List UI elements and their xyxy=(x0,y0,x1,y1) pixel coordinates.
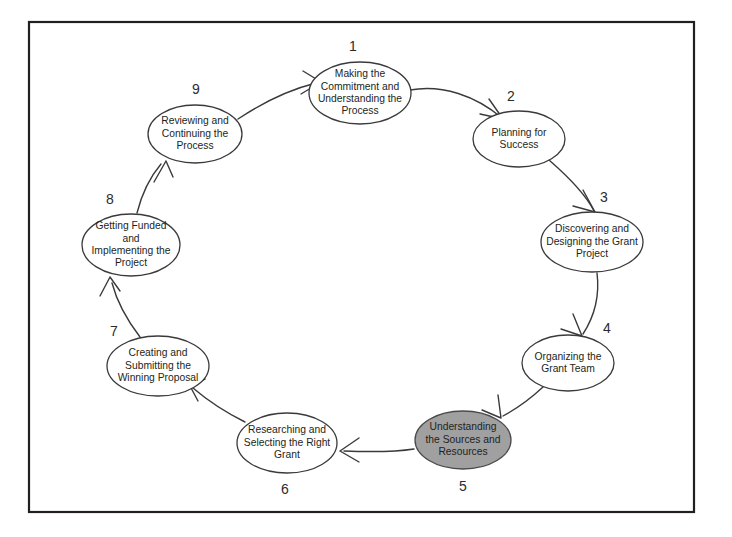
process-cycle-diagram: Making theCommitment andUnderstanding th… xyxy=(0,0,732,537)
node-label-line: Creating and xyxy=(129,347,188,358)
node-label-line: Understanding the xyxy=(318,93,402,104)
node-label-line: Reviewing and xyxy=(161,115,229,126)
node-step-number: 8 xyxy=(106,191,114,207)
node-step-number: 1 xyxy=(349,38,357,54)
node-label-line: Commitment and xyxy=(321,81,400,92)
cycle-diagram-canvas: Making theCommitment andUnderstanding th… xyxy=(0,0,732,537)
node-label-line: Project xyxy=(576,248,608,259)
node-label-line: Planning for xyxy=(492,127,548,138)
node-step-number: 7 xyxy=(110,323,118,339)
node-label-line: Implementing the xyxy=(92,245,171,256)
node-label-line: Process xyxy=(176,140,213,151)
node-label-line: and xyxy=(122,233,139,244)
node-label-line: the Sources and xyxy=(426,434,501,445)
node-step-number: 5 xyxy=(459,478,467,494)
node-label-line: Resources xyxy=(438,446,487,457)
node-step-number: 6 xyxy=(281,481,289,497)
node-label-line: Grant Team xyxy=(541,363,595,374)
node-label-line: Continuing the xyxy=(162,128,229,139)
node-label-line: Making the xyxy=(335,68,386,79)
node-step-number: 4 xyxy=(603,320,611,336)
node-step-number: 2 xyxy=(507,88,515,104)
node-label-line: Success xyxy=(500,139,539,150)
node-label-line: Selecting the Right xyxy=(244,437,331,448)
node-label-line: Understanding xyxy=(430,421,497,432)
node-label-line: Researching and xyxy=(248,424,326,435)
node-step-number: 3 xyxy=(600,189,608,205)
node-label-line: Organizing the xyxy=(535,351,602,362)
node-label-line: Project xyxy=(115,257,147,268)
node-step-number: 9 xyxy=(192,81,200,97)
node-label-line: Getting Funded xyxy=(96,220,167,231)
node-label-line: Winning Proposal xyxy=(118,372,199,383)
node-label-line: Discovering and xyxy=(555,223,629,234)
node-label-line: Process xyxy=(341,105,378,116)
node-label-line: Designing the Grant xyxy=(546,236,638,247)
node-label-line: Grant xyxy=(274,449,300,460)
node-label-line: Submitting the xyxy=(125,360,191,371)
